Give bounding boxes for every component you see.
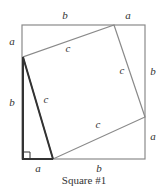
label-top-b: b	[62, 9, 68, 21]
right-angle-marker	[23, 152, 30, 159]
label-left-b: b	[9, 96, 15, 108]
label-bottom-a: a	[35, 162, 41, 174]
label-c-right: c	[120, 64, 125, 76]
label-c-bottom: c	[96, 118, 101, 130]
figure-caption: Square #1	[62, 174, 106, 186]
label-c-top: c	[66, 42, 71, 54]
label-top-a: a	[125, 9, 131, 21]
label-right-b: b	[150, 65, 156, 77]
outer-square	[22, 25, 145, 159]
label-bottom-b: b	[96, 162, 102, 174]
label-right-a: a	[150, 130, 156, 142]
label-c-left: c	[44, 93, 49, 105]
triangle-hypotenuse	[23, 57, 53, 159]
label-left-a: a	[9, 35, 15, 47]
pythagorean-square-diagram: b a a b b a a b c c c c Square #1	[0, 0, 163, 188]
inner-tilted-square	[23, 25, 145, 159]
